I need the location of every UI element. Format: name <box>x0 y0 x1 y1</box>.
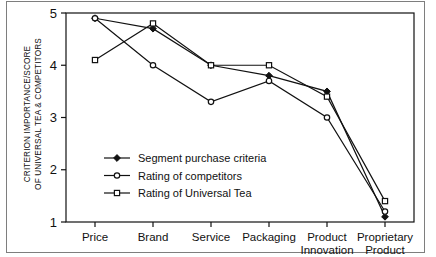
x-axis-ticks <box>95 222 385 227</box>
marker-open-circle <box>266 78 271 83</box>
y-tick-label: 2 <box>50 162 57 177</box>
marker-open-circle <box>150 63 155 68</box>
legend-marker-open-circle <box>114 173 119 178</box>
marker-open-square <box>92 57 97 62</box>
marker-open-square <box>266 63 271 68</box>
marker-open-circle <box>92 16 97 21</box>
legend-label-2: Rating of competitors <box>138 170 242 182</box>
x-axis-category-labels: PriceBrandServicePackagingProductInnovat… <box>82 231 413 256</box>
marker-open-circle <box>208 99 213 104</box>
legend-marker-open-square <box>114 190 119 195</box>
series-line-2 <box>95 18 385 211</box>
chart-figure: CRITERION IMPORTANCE/SCORE OF UNIVERSAL … <box>0 0 436 257</box>
x-category-label: Product <box>365 244 405 256</box>
y-tick-label: 3 <box>50 110 57 125</box>
marker-open-square <box>324 94 329 99</box>
x-category-label: Packaging <box>242 231 296 243</box>
x-category-label: Product <box>307 231 347 243</box>
legend-label-3: Rating of Universal Tea <box>138 187 252 199</box>
marker-open-circle <box>382 209 387 214</box>
x-category-label: Proprietary <box>357 231 413 243</box>
line-chart-plot: 12345 PriceBrandServicePackagingProductI… <box>0 0 436 257</box>
legend-label-1: Segment purchase criteria <box>138 152 267 164</box>
marker-open-circle <box>324 115 329 120</box>
x-category-label: Brand <box>138 231 169 243</box>
x-category-label: Service <box>192 231 230 243</box>
y-tick-label: 1 <box>50 215 57 230</box>
marker-open-square <box>150 21 155 26</box>
marker-open-square <box>382 199 387 204</box>
legend-marker-filled-diamond <box>114 155 121 162</box>
y-tick-label: 5 <box>50 6 57 21</box>
x-category-label: Innovation <box>300 244 353 256</box>
y-axis-ticks: 12345 <box>50 6 66 230</box>
chart-legend: Segment purchase criteriaRating of compe… <box>104 152 267 199</box>
x-category-label: Price <box>82 231 108 243</box>
marker-open-square <box>208 63 213 68</box>
y-tick-label: 4 <box>50 58 57 73</box>
